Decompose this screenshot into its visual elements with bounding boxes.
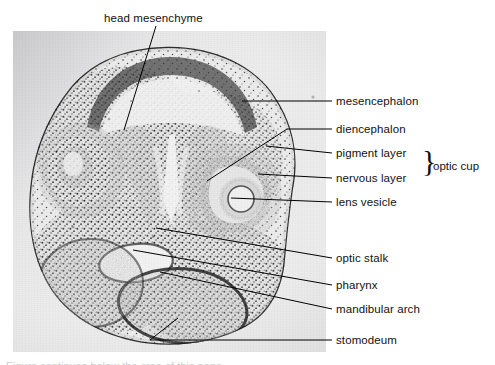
label-mesencephalon: mesencephalon <box>336 95 419 107</box>
label-optic-cup: optic cup <box>433 160 479 172</box>
leader-stomodeum <box>150 318 178 340</box>
label-diencephalon: diencephalon <box>336 123 406 135</box>
leader-optic-stalk <box>156 228 332 258</box>
leader-mandibular-arch <box>160 272 332 309</box>
leader-lines <box>0 0 495 365</box>
leader-head-mesenchyme <box>124 26 156 130</box>
leader-nervous-layer <box>258 174 332 178</box>
leader-pharynx <box>133 250 332 285</box>
figure-plate: head mesenchyme <box>0 0 495 365</box>
label-pharynx: pharynx <box>336 279 378 291</box>
label-nervous-layer: nervous layer <box>336 172 406 184</box>
label-pigment-layer: pigment layer <box>336 147 406 159</box>
label-stomodeum: stomodeum <box>336 334 397 346</box>
leader-diencephalon <box>207 129 287 181</box>
page-caption-sliver: Figure continues below the crop of this … <box>6 360 476 365</box>
label-optic-stalk: optic stalk <box>336 252 388 264</box>
leader-lens-vesicle <box>231 198 332 202</box>
leader-pigment-layer <box>266 146 332 153</box>
label-mandibular-arch: mandibular arch <box>336 303 420 315</box>
label-lens-vesicle: lens vesicle <box>336 196 397 208</box>
